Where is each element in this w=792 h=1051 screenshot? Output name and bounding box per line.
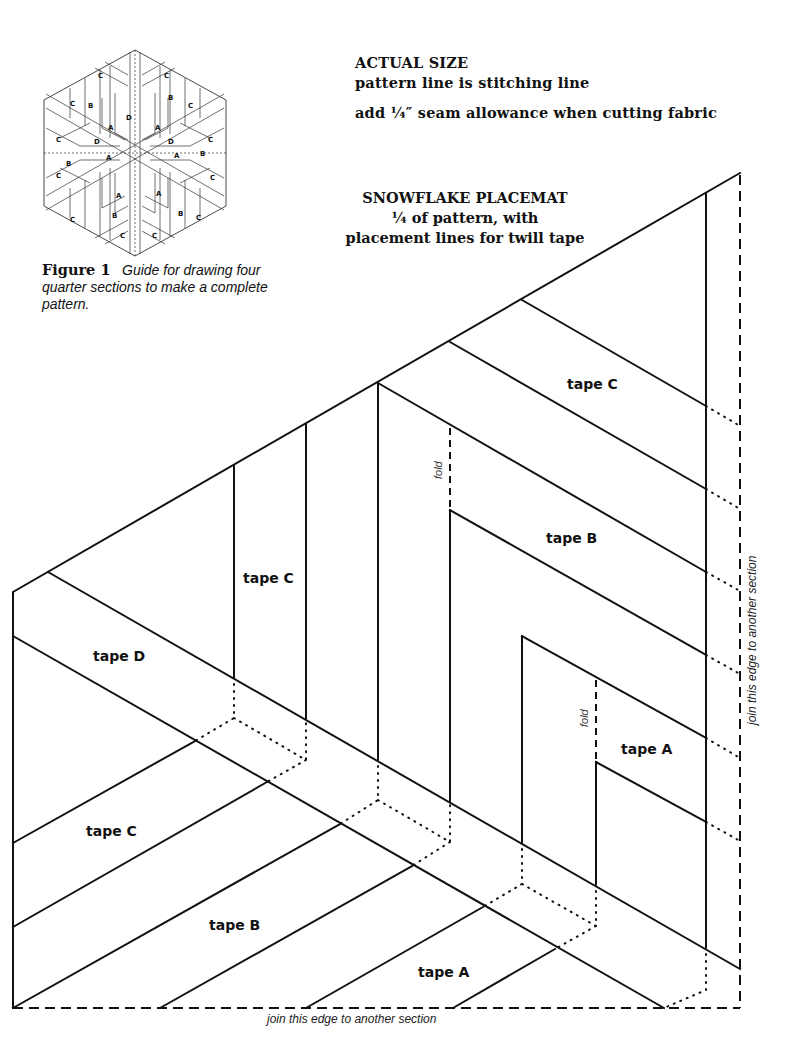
placemat-pattern-diagram: tape C tape B tape A tape C tape D tape …: [0, 0, 792, 1051]
outer-top-edge: [13, 173, 740, 1008]
fold-label-upper: fold: [432, 460, 444, 479]
tape-c-upper-right-label: tape C: [567, 376, 618, 392]
tape-c-vertical-label: tape C: [243, 570, 294, 586]
tape-b-upper-right-label: tape B: [546, 530, 597, 546]
tape-a-right-label: tape A: [621, 741, 673, 757]
tape-d-label: tape D: [93, 648, 145, 664]
fold-label-lower: fold: [578, 708, 590, 727]
tape-a-lower-label: tape A: [418, 964, 470, 980]
join-right-label: join this edge to another section: [745, 555, 759, 727]
join-bottom-label: join this edge to another section: [265, 1012, 437, 1026]
tape-b-lower-label: tape B: [209, 917, 260, 933]
tape-c-lower-left-label: tape C: [86, 823, 137, 839]
